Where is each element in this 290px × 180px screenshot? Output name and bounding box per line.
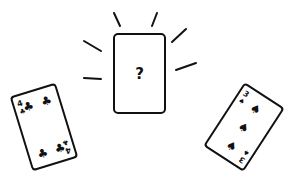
ray-top-left [114, 13, 120, 26]
question-mark: ? [135, 65, 144, 83]
card-three-of-spades: 3 ♠ ♠ ♠ ♠ 3 ♠ [205, 83, 284, 170]
card-four-of-clubs: 4 ♣ ♣ ♣ ♣ ♣ 4 ♣ [11, 84, 77, 170]
ray-right-upper [172, 29, 186, 42]
ray-right-lower [176, 63, 196, 70]
cards-illustration: ? 4 ♣ ♣ ♣ ♣ ♣ 4 ♣ 3 ♠ ♠ ♠ ♠ 3 ♠ [0, 0, 290, 180]
ray-left-lower [84, 78, 101, 79]
ray-top-right [152, 13, 157, 26]
ray-left-upper [84, 41, 101, 51]
mystery-card-group: ? [84, 13, 196, 113]
